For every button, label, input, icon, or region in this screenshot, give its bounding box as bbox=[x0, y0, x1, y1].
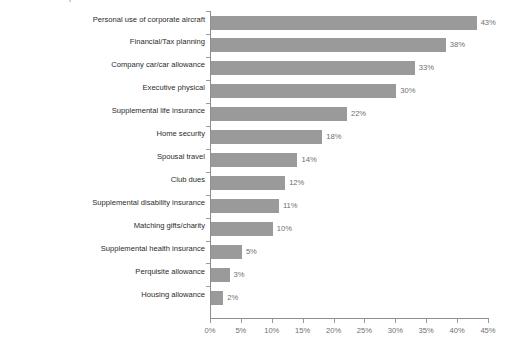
category-axis-tick bbox=[206, 126, 210, 127]
x-axis-tick bbox=[488, 319, 489, 323]
x-axis-tick-label: 40% bbox=[442, 326, 472, 336]
category-axis-tick bbox=[206, 149, 210, 150]
category-label: Matching gifts/charity bbox=[134, 221, 205, 231]
category-label: Housing allowance bbox=[141, 290, 205, 300]
category-axis-tick bbox=[206, 57, 210, 58]
bar bbox=[211, 199, 279, 213]
category-label: Executive physical bbox=[143, 83, 205, 93]
bar bbox=[211, 38, 446, 52]
x-axis-tick bbox=[272, 319, 273, 323]
bar bbox=[211, 222, 273, 236]
bar bbox=[211, 153, 297, 167]
x-axis-tick-label: 5% bbox=[226, 326, 256, 336]
bar bbox=[211, 291, 223, 305]
bar-value-label: 14% bbox=[301, 155, 316, 165]
bar bbox=[211, 107, 347, 121]
x-axis-tick-label: 10% bbox=[257, 326, 287, 336]
category-label: Company car/car allowance bbox=[111, 60, 205, 70]
bar bbox=[211, 84, 396, 98]
bar bbox=[211, 16, 477, 30]
bar bbox=[211, 245, 242, 259]
x-axis-tick-label: 20% bbox=[319, 326, 349, 336]
x-axis-tick bbox=[303, 319, 304, 323]
x-axis-tick bbox=[457, 319, 458, 323]
category-axis-tick bbox=[206, 263, 210, 264]
horizontal-bar-chart: Personal use of corporate aircraft43%Fin… bbox=[0, 0, 512, 344]
bar-row: Home security18% bbox=[0, 126, 512, 149]
category-label: Financial/Tax planning bbox=[130, 37, 205, 47]
bar-row: Matching gifts/charity10% bbox=[0, 218, 512, 241]
category-axis-tick bbox=[206, 34, 210, 35]
category-label: Supplemental disability insurance bbox=[92, 198, 205, 208]
bar bbox=[211, 61, 415, 75]
bar-value-label: 3% bbox=[234, 270, 245, 280]
bar bbox=[211, 130, 322, 144]
bar-row: Club dues12% bbox=[0, 172, 512, 195]
category-label: Perquisite allowance bbox=[135, 267, 205, 277]
bar bbox=[211, 176, 285, 190]
category-axis-tick bbox=[206, 286, 210, 287]
bar-value-label: 38% bbox=[450, 40, 465, 50]
bar-value-label: 33% bbox=[419, 63, 434, 73]
category-axis-tick bbox=[206, 241, 210, 242]
bar-value-label: 43% bbox=[481, 18, 496, 28]
category-axis-tick bbox=[206, 11, 210, 12]
bar-value-label: 2% bbox=[227, 293, 238, 303]
bar-value-label: 18% bbox=[326, 132, 341, 142]
bar-row: Supplemental disability insurance11% bbox=[0, 195, 512, 218]
x-axis-tick-label: 25% bbox=[349, 326, 379, 336]
bar-value-label: 11% bbox=[283, 201, 298, 211]
category-axis-tick bbox=[206, 218, 210, 219]
category-axis-tick bbox=[206, 103, 210, 104]
bar-row: Spousal travel14% bbox=[0, 149, 512, 172]
bar-row: Perquisite allowance3% bbox=[0, 263, 512, 286]
category-axis-tick bbox=[206, 195, 210, 196]
bar-row: Supplemental life insurance22% bbox=[0, 103, 512, 126]
category-label: Spousal travel bbox=[157, 152, 205, 162]
category-label: Club dues bbox=[171, 175, 205, 185]
bar-value-label: 30% bbox=[400, 86, 415, 96]
bar bbox=[211, 268, 230, 282]
x-axis-tick bbox=[210, 319, 211, 323]
x-axis-tick-label: 35% bbox=[411, 326, 441, 336]
category-label: Supplemental life insurance bbox=[112, 106, 205, 116]
bar-row: Personal use of corporate aircraft43% bbox=[0, 11, 512, 34]
category-label: Home security bbox=[156, 129, 205, 139]
bar-value-label: 22% bbox=[351, 109, 366, 119]
bar-row: Supplemental health insurance5% bbox=[0, 241, 512, 264]
x-axis-tick bbox=[241, 319, 242, 323]
x-axis-tick bbox=[334, 319, 335, 323]
category-axis-tick bbox=[206, 172, 210, 173]
x-axis-tick-label: 45% bbox=[473, 326, 503, 336]
category-label: Personal use of corporate aircraft bbox=[93, 15, 205, 25]
bar-row: Executive physical30% bbox=[0, 80, 512, 103]
bar-value-label: 5% bbox=[246, 247, 257, 257]
category-axis-tick bbox=[206, 80, 210, 81]
x-axis-tick-label: 15% bbox=[288, 326, 318, 336]
bar-value-label: 10% bbox=[277, 224, 292, 234]
bar-value-label: 12% bbox=[289, 178, 304, 188]
x-axis-tick bbox=[395, 319, 396, 323]
category-label: Supplemental health insurance bbox=[101, 244, 205, 254]
bar-row: Company car/car allowance33% bbox=[0, 57, 512, 80]
x-axis-tick bbox=[364, 319, 365, 323]
value-axis-line bbox=[210, 318, 489, 319]
x-axis-tick bbox=[426, 319, 427, 323]
x-axis-tick-label: 0% bbox=[195, 326, 225, 336]
bar-row: Housing allowance2% bbox=[0, 286, 512, 309]
bar-row: Financial/Tax planning38% bbox=[0, 34, 512, 57]
x-axis-tick-label: 30% bbox=[380, 326, 410, 336]
